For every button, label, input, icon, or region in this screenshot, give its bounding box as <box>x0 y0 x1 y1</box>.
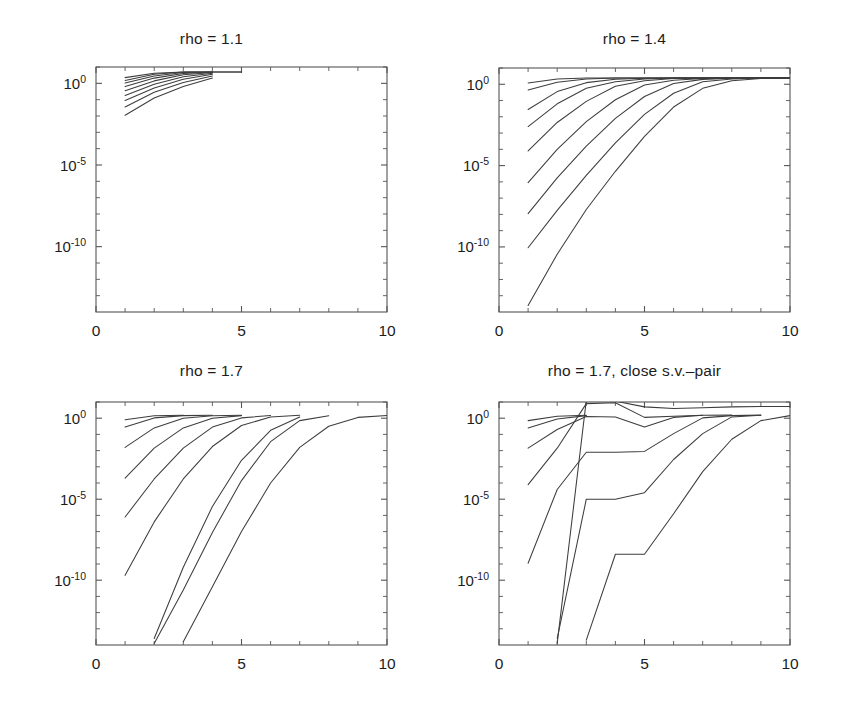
plot-panel-rho-1-7-close-sv: rho = 1.7, close s.v.–pair 051010010-510… <box>423 362 846 692</box>
data-curve <box>125 416 241 479</box>
y-tick-label: 10-5 <box>463 489 489 508</box>
plot-panel-rho-1-4: rho = 1.4 051010010-510-10 <box>423 30 846 355</box>
y-tick-label: 100 <box>63 408 86 427</box>
x-tick-label: 0 <box>495 655 504 672</box>
plot-panel-rho-1-1: rho = 1.1 051010010-510-10 <box>0 30 423 355</box>
y-tick-label: 10-5 <box>60 155 86 174</box>
data-curve <box>183 415 387 641</box>
plot-frame <box>499 68 790 312</box>
plot-canvas: 051010010-510-10 <box>0 30 423 360</box>
plot-canvas: 051010010-510-10 <box>423 362 846 692</box>
data-curve <box>528 78 790 127</box>
plot-frame <box>96 402 387 645</box>
data-curve <box>528 78 790 248</box>
series-group <box>125 72 241 115</box>
y-tick-label: 100 <box>466 408 489 427</box>
series-group <box>125 415 387 643</box>
data-curve <box>154 417 300 639</box>
data-curve <box>528 403 732 485</box>
data-curve <box>557 415 761 638</box>
y-tick-label: 10-10 <box>54 570 86 589</box>
data-curve <box>528 78 790 306</box>
figure-container: rho = 1.1 051010010-510-10 rho = 1.4 051… <box>0 0 846 715</box>
x-tick-label: 10 <box>378 655 396 672</box>
y-tick-label: 10-10 <box>457 570 489 589</box>
y-tick-label: 100 <box>466 74 489 93</box>
data-curve <box>125 415 271 517</box>
data-curve <box>125 415 241 447</box>
y-tick-label: 10-10 <box>54 236 86 255</box>
y-tick-label: 10-10 <box>457 236 489 255</box>
series-group <box>528 400 790 643</box>
x-tick-label: 0 <box>92 322 101 339</box>
x-tick-label: 10 <box>781 322 799 339</box>
y-tick-label: 100 <box>63 73 86 92</box>
x-tick-label: 5 <box>640 322 649 339</box>
plot-canvas: 051010010-510-10 <box>423 30 846 360</box>
data-curve <box>557 400 790 643</box>
data-curve <box>154 416 329 644</box>
x-tick-label: 5 <box>640 655 649 672</box>
x-tick-label: 0 <box>92 655 101 672</box>
data-curve <box>528 415 761 563</box>
x-tick-label: 5 <box>237 322 246 339</box>
x-tick-label: 10 <box>378 322 396 339</box>
x-tick-label: 5 <box>237 655 246 672</box>
y-tick-label: 10-5 <box>463 155 489 174</box>
series-group <box>528 78 790 306</box>
data-curve <box>586 416 790 641</box>
plot-frame <box>96 67 387 312</box>
y-tick-label: 10-5 <box>60 489 86 508</box>
x-tick-label: 10 <box>781 655 799 672</box>
plot-canvas: 051010010-510-10 <box>0 362 423 692</box>
plot-panel-rho-1-7: rho = 1.7 051010010-510-10 <box>0 362 423 692</box>
x-tick-label: 0 <box>495 322 504 339</box>
